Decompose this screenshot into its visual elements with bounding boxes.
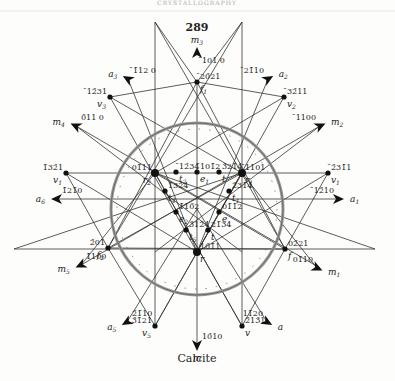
pole-index: ̄12̄34 bbox=[175, 162, 199, 171]
arrow-a2: ̄21̄10a2 bbox=[240, 66, 288, 86]
pole-index: ̄32̄11 bbox=[283, 87, 307, 96]
pole-index: 3̄21̄4 bbox=[222, 162, 242, 171]
arrow-symbol: a6 bbox=[36, 194, 45, 205]
pole-index: 2̄01 bbox=[90, 238, 105, 247]
pole-index: 02̄21 bbox=[288, 239, 308, 248]
arrow-m2: ̄1100m2 bbox=[292, 113, 344, 133]
pole-symbol: e2 bbox=[179, 214, 188, 225]
arrow-symbol: m2 bbox=[331, 117, 344, 128]
pole-symbol: v1 bbox=[53, 175, 62, 186]
pole-dot-icon bbox=[183, 227, 188, 232]
pole-dot-icon bbox=[239, 323, 244, 328]
pole-index: ̄1101 bbox=[241, 163, 265, 172]
arrow-a6: 1̄21̄0a6 bbox=[36, 186, 83, 205]
page-number: 289 bbox=[186, 21, 209, 34]
arrow-index: ̄101 0 bbox=[198, 56, 225, 65]
pole-symbol: t bbox=[222, 174, 226, 184]
pole-index: 1̄32̄1 bbox=[43, 163, 63, 172]
pole-symbol: t1 bbox=[232, 193, 239, 204]
arrow-a1: ̄12̄10a1 bbox=[310, 186, 360, 205]
arrow-index: ̄1100 bbox=[292, 113, 316, 122]
arrow-a3: ̄1̄12 0a3 bbox=[108, 66, 156, 86]
running-head: CRYSTALLOGRAPHY bbox=[157, 0, 237, 6]
pole-dot-icon bbox=[173, 169, 178, 174]
pole-symbol: f1 bbox=[199, 84, 207, 95]
pole-dot-icon bbox=[282, 246, 287, 251]
arrow-index: ̄12̄10 bbox=[310, 186, 334, 195]
arrow-index: 1̄100 bbox=[86, 252, 106, 261]
pole-symbol: r bbox=[200, 254, 205, 264]
pole-index: 1̄10̄2 bbox=[179, 202, 199, 211]
pole-index: 1̄32̄4 bbox=[168, 181, 188, 190]
arrow-m4: 0̄11 0m4 bbox=[53, 113, 104, 133]
arrow-index: 11̄20 bbox=[243, 309, 263, 318]
pole-symbol: v3 bbox=[97, 99, 106, 110]
pole-dot-icon bbox=[105, 245, 110, 250]
stereographic-projection: CRYSTALLOGRAPHY 289 bbox=[0, 0, 395, 381]
pole-index: 21̄34 bbox=[211, 220, 231, 229]
pole-dot-icon bbox=[194, 79, 199, 84]
pole-index: 3̄12̄4 bbox=[189, 220, 209, 229]
arrow-symbol: a5 bbox=[107, 322, 116, 333]
pole-dot-icon bbox=[162, 188, 167, 193]
pole-dot-icon bbox=[226, 188, 231, 193]
pole-v5: 3̄1̄21v5 bbox=[132, 316, 158, 339]
pole-index: ̄101̄2 bbox=[196, 162, 220, 171]
figure-caption: Calcite bbox=[177, 352, 216, 365]
pole-v1b: 1̄32̄1v1 bbox=[43, 163, 69, 186]
pole-index: ̄20̄21 bbox=[196, 72, 220, 81]
arrow-symbol: a2 bbox=[279, 69, 288, 80]
pole-dot-icon bbox=[281, 94, 286, 99]
arrow-index: 0̄11 0 bbox=[81, 113, 104, 122]
pole-index: 10̄1̄1 bbox=[200, 242, 220, 251]
arrow-head-icon bbox=[192, 47, 202, 58]
pole-v1: ̄2̄31̄1v1 bbox=[325, 163, 351, 186]
pole-dot-icon bbox=[216, 209, 221, 214]
arrow-index: 2̄1̄10 bbox=[132, 309, 152, 318]
arrow-index: 01̄10 bbox=[293, 255, 313, 264]
arrow-symbol: a3 bbox=[108, 69, 117, 80]
pole-symbol: t bbox=[211, 232, 215, 242]
arrow-symbol: a bbox=[278, 322, 283, 332]
arrow-index: ̄1̄12 0 bbox=[129, 66, 156, 75]
pole-index: ̄2̄31̄1 bbox=[327, 163, 351, 172]
arrow-m1: 01̄10m1 bbox=[293, 255, 341, 278]
pole-dot-icon bbox=[205, 227, 210, 232]
pole-t1: 2̄31̄4t1 bbox=[226, 181, 252, 204]
pole-symbol: t5 bbox=[189, 232, 197, 243]
arrow-index: ̄21̄10 bbox=[240, 66, 264, 75]
pole-index: ̄12̄31 bbox=[83, 87, 107, 96]
pole-symbol: v bbox=[245, 328, 250, 338]
arrow-index: 10̄10 bbox=[202, 332, 222, 341]
arrow-symbol: m5 bbox=[58, 264, 71, 275]
pole-symbol: e1 bbox=[200, 174, 209, 185]
zone-lines bbox=[14, 22, 375, 345]
arrow-symbol: m4 bbox=[53, 117, 66, 128]
pole-index: 01̄11 bbox=[132, 163, 152, 172]
arrow-symbol: m3 bbox=[191, 35, 204, 46]
pole-symbol: v5 bbox=[142, 328, 151, 339]
pole-dot-icon bbox=[151, 169, 159, 177]
pole-dot-icon bbox=[173, 209, 178, 214]
pole-v3: ̄12̄31v3 bbox=[83, 87, 113, 110]
pole-v: 2̄13̄1v bbox=[239, 316, 265, 338]
pole-symbol: v1 bbox=[331, 175, 340, 186]
arrow-m3: ̄101 0m3 bbox=[191, 35, 225, 65]
arrow-index: 1̄21̄0 bbox=[62, 186, 82, 195]
arrow-m5: 1̄100m5 bbox=[58, 252, 107, 275]
pole-v2: ̄32̄11v2 bbox=[281, 87, 307, 110]
pole-dot-icon bbox=[107, 94, 112, 99]
pole-dot-icon bbox=[325, 170, 330, 175]
pole-index: 2̄31̄4 bbox=[232, 181, 252, 190]
arrow-symbol: m1 bbox=[328, 267, 340, 278]
pole-dot-icon bbox=[152, 323, 157, 328]
pole-dot-icon bbox=[216, 169, 221, 174]
pole-dot-icon bbox=[63, 170, 68, 175]
pole-symbol: v2 bbox=[287, 99, 296, 110]
arrow-symbol: a1 bbox=[350, 194, 359, 205]
